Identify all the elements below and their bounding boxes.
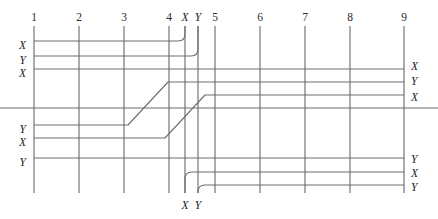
left-signal-label-4: X — [18, 136, 27, 148]
column-label-7: 7 — [302, 11, 308, 23]
schematic-diagram: 123456789 XYXY XYXYXYXYXYXY — [0, 0, 438, 219]
column-label-6: 6 — [257, 11, 263, 23]
bottom-tap-label-y-1: Y — [195, 199, 203, 211]
wire-bottom-x-tap — [185, 172, 404, 193]
tap-label-group: XYXY — [180, 11, 202, 211]
left-signal-label-1: Y — [20, 54, 28, 66]
wire-top-x-tap — [34, 26, 185, 41]
wire-diagonal-lower-to-upper-b — [34, 95, 404, 138]
column-label-4: 4 — [166, 11, 172, 23]
column-label-5: 5 — [212, 11, 218, 23]
wire-bottom-y-tap — [198, 185, 404, 193]
wire-crossing-schematic: 123456789 XYXY XYXYXYXYXYXY — [0, 0, 438, 219]
left-signal-label-5: Y — [20, 156, 28, 168]
right-signal-label-1: Y — [411, 75, 419, 87]
left-signal-label-0: X — [18, 39, 27, 51]
left-signal-label-3: Y — [20, 123, 28, 135]
top-tap-label-x-0: X — [180, 11, 189, 23]
right-signal-label-5: Y — [411, 181, 419, 193]
column-label-9: 9 — [401, 11, 407, 23]
right-signal-label-4: X — [410, 167, 419, 179]
left-signal-label-2: X — [18, 67, 27, 79]
column-label-3: 3 — [121, 11, 127, 23]
column-label-1: 1 — [31, 11, 37, 23]
right-signal-label-0: X — [410, 60, 419, 72]
column-label-8: 8 — [347, 11, 353, 23]
bottom-tap-label-x-0: X — [180, 199, 189, 211]
column-label-2: 2 — [76, 11, 82, 23]
wire-group — [0, 26, 438, 193]
column-label-group: 123456789 — [31, 11, 407, 23]
top-tap-label-y-1: Y — [195, 11, 203, 23]
wire-diagonal-lower-to-upper-a — [34, 82, 404, 125]
right-signal-label-2: X — [410, 91, 419, 103]
side-label-group: XYXYXYXYXYXY — [18, 39, 419, 193]
right-signal-label-3: Y — [411, 153, 419, 165]
column-line-group — [34, 26, 404, 193]
